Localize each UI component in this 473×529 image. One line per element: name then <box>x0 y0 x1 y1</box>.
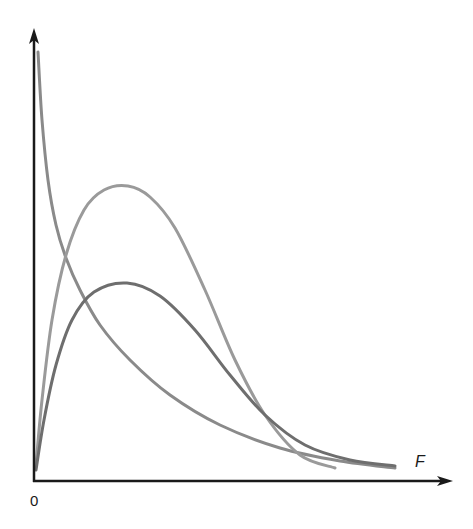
f-distribution-chart <box>0 0 473 529</box>
origin-label: 0 <box>30 492 38 509</box>
curve-decay-line <box>38 52 395 468</box>
curve-tall-peak-line <box>36 186 335 468</box>
axes <box>29 28 453 486</box>
curves <box>36 52 395 470</box>
x-axis-label: F <box>415 453 425 471</box>
